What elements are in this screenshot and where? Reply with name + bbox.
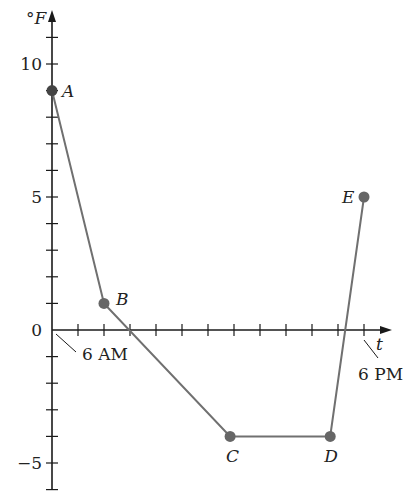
x-tick-label-6am: 6 AM: [82, 344, 128, 364]
x-axis-arrow-icon: [380, 326, 392, 334]
point-e: [359, 192, 370, 203]
point-c: [225, 431, 236, 442]
point-label-e: E: [341, 187, 355, 207]
point-b: [99, 298, 110, 309]
labels: 1050−5°Ft6 AM6 PMABCDE: [17, 8, 403, 473]
point-label-c: C: [226, 446, 239, 466]
point-label-a: A: [60, 81, 74, 101]
point-d: [325, 431, 336, 442]
point-label-d: D: [323, 446, 338, 466]
y-axis-label: °F: [26, 8, 48, 28]
y-tick-label: −5: [17, 453, 42, 473]
y-tick-label: 0: [31, 320, 42, 340]
data-series: [47, 85, 370, 442]
temperature-line: [52, 91, 364, 437]
x-axis-label: t: [376, 334, 383, 354]
temperature-chart: 1050−5°Ft6 AM6 PMABCDE: [0, 0, 412, 502]
point-label-b: B: [115, 289, 129, 309]
y-axis-arrow-icon: [48, 10, 56, 22]
callout-6am: [56, 334, 76, 352]
axes: [46, 10, 392, 490]
y-tick-label: 10: [20, 54, 42, 74]
point-a: [47, 85, 58, 96]
x-tick-label-6pm: 6 PM: [358, 364, 403, 384]
y-tick-label: 5: [31, 187, 42, 207]
